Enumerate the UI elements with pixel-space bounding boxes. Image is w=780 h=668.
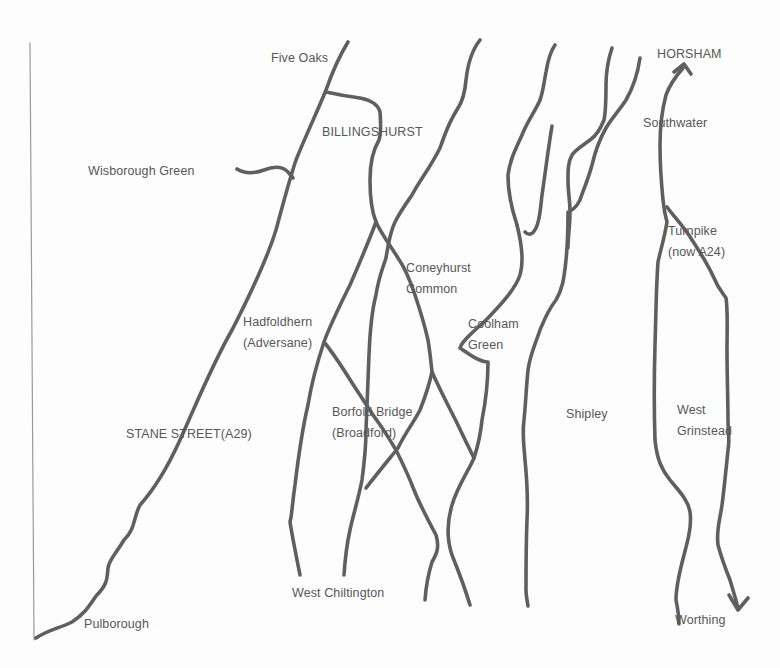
label-southwater: Southwater <box>643 113 707 134</box>
label-horsham: HORSHAM <box>657 44 722 65</box>
label-turnpike: Turnpike (now A24) <box>668 221 725 263</box>
label-west-chiltington: West Chiltington <box>292 583 384 604</box>
page-border-line <box>30 43 34 640</box>
road-shipley-main <box>523 58 640 606</box>
label-coolham-green: Coolham Green <box>468 314 519 356</box>
road-billingshurst-loop <box>326 92 381 222</box>
label-coneyhurst-common: Coneyhurst Common <box>406 258 471 300</box>
label-wisborough-green: Wisborough Green <box>88 161 195 182</box>
label-five-oaks: Five Oaks <box>271 48 328 69</box>
label-borfold-bridge: Borfold Bridge (Broadford) <box>332 402 413 444</box>
roads-layer <box>0 0 780 668</box>
label-billingshurst: BILLINGSHURST <box>322 122 423 143</box>
label-hadfoldhern: Hadfoldhern (Adversane) <box>243 312 312 354</box>
road-north-coneyhurst-west <box>344 40 480 575</box>
label-stane-street: STANE STREET(A29) <box>126 424 252 445</box>
road-coneyhurst-southeast <box>432 372 474 458</box>
label-pulborough: Pulborough <box>84 614 149 635</box>
road-wisborough-spur <box>237 167 293 178</box>
label-west-grinstead: West Grinstead <box>677 400 732 442</box>
road-coolham-north <box>508 45 555 225</box>
label-worthing: Worthing <box>675 610 726 631</box>
road-horsham-worthing-west <box>654 68 690 624</box>
road-map: Five Oaks BILLINGSHURST Wisborough Green… <box>0 0 780 668</box>
road-coolham-inner-branch <box>525 126 552 234</box>
arrow-head-worthing <box>729 595 748 610</box>
road-shipley-west-branch <box>568 48 612 248</box>
label-shipley: Shipley <box>566 404 608 425</box>
